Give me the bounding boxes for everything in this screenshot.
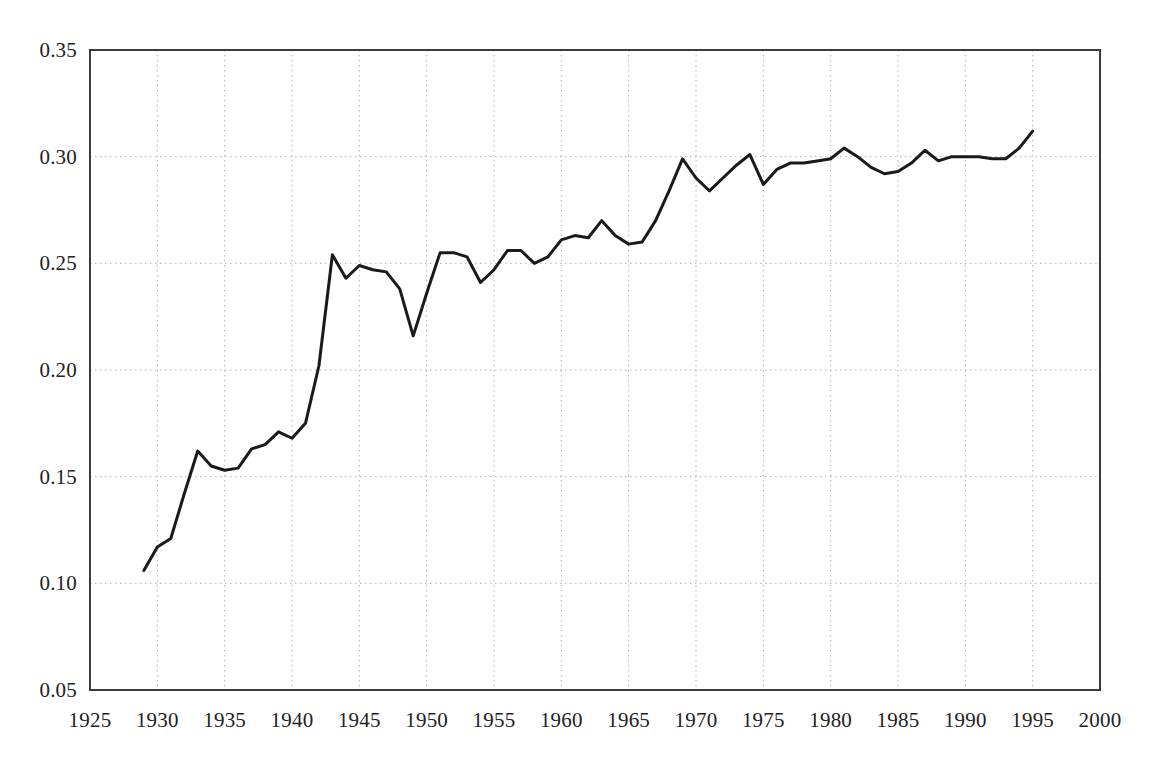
x-tick-label: 1990	[944, 708, 987, 733]
data-line-series-1	[144, 131, 1033, 570]
y-tick-label: 0.15	[0, 464, 77, 489]
x-tick-label: 1985	[877, 708, 920, 733]
x-tick-label: 1960	[540, 708, 583, 733]
x-tick-label: 1925	[69, 708, 112, 733]
x-tick-label: 1955	[473, 708, 516, 733]
x-tick-label: 1950	[405, 708, 448, 733]
x-tick-label: 1935	[203, 708, 246, 733]
y-tick-label: 0.35	[0, 38, 77, 63]
y-tick-label: 0.10	[0, 571, 77, 596]
x-tick-label: 1970	[675, 708, 718, 733]
x-tick-label: 1995	[1011, 708, 1054, 733]
x-tick-label: 1980	[809, 708, 852, 733]
horizontal-gridlines	[90, 157, 1100, 584]
x-tick-label: 1975	[742, 708, 785, 733]
x-tick-label: 1965	[607, 708, 650, 733]
line-chart-plot	[0, 0, 1159, 768]
y-tick-label: 0.25	[0, 251, 77, 276]
x-tick-label: 1940	[271, 708, 314, 733]
x-tick-label: 1930	[136, 708, 179, 733]
x-tick-label: 2000	[1079, 708, 1122, 733]
y-tick-label: 0.30	[0, 144, 77, 169]
y-tick-label: 0.20	[0, 358, 77, 383]
x-tick-label: 1945	[338, 708, 381, 733]
chart-container: 0.050.100.150.200.250.300.35 19251930193…	[0, 0, 1159, 768]
y-tick-label: 0.05	[0, 678, 77, 703]
